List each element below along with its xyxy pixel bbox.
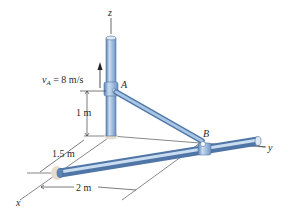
- velocity-arrow: [98, 62, 103, 88]
- x-axis-label: x: [15, 197, 21, 208]
- velocity-label: vA = 8 m/s: [42, 74, 83, 87]
- dimension-1-5m-label: 1.5 m: [52, 148, 75, 159]
- mechanism-diagram: z y: [0, 0, 290, 217]
- point-B-label: B: [203, 128, 209, 139]
- z-axis: z: [107, 7, 112, 34]
- point-A-label: A: [120, 79, 128, 90]
- dimension-1m-label: 1 m: [76, 107, 92, 118]
- dimension-2m-label: 2 m: [76, 182, 92, 193]
- link-rod-AB: [116, 92, 202, 141]
- horizontal-rod: [57, 137, 261, 178]
- collar-B: [198, 141, 211, 155]
- y-axis-label: y: [267, 142, 273, 153]
- z-axis-label: z: [107, 7, 112, 18]
